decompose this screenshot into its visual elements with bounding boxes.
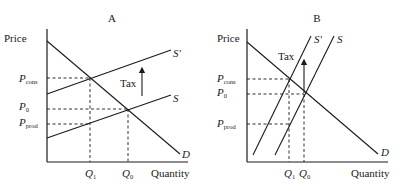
- p-cons-label: Pcons: [18, 72, 38, 85]
- supply-shifted-label: S': [173, 47, 182, 59]
- q0-label: Q0: [299, 167, 310, 180]
- p0-label: P0: [18, 100, 29, 113]
- panel-b-title: B: [313, 12, 320, 24]
- panel-b: B Price Quantity D S' S Tax Pcons P0 Ppr…: [216, 12, 390, 180]
- tax-label: Tax: [120, 77, 137, 89]
- tax-incidence-figure: A Price Quantity D S' S Tax Pcons P0 Ppr…: [0, 0, 402, 191]
- panel-a-title: A: [108, 12, 116, 24]
- supply-shifted-label: S': [314, 33, 323, 45]
- supply-label: S: [173, 92, 179, 104]
- price-axis-label: Price: [4, 32, 27, 44]
- p-prod-label: Pprod: [18, 116, 38, 129]
- p-cons-label: Pcons: [216, 72, 236, 85]
- q1-label: Q1: [284, 167, 295, 180]
- p-prod-label: Pprod: [216, 117, 236, 130]
- price-axis-label: Price: [217, 32, 240, 44]
- p0-label: P0: [216, 86, 227, 99]
- demand-label: D: [181, 148, 190, 160]
- quantity-axis-label: Quantity: [351, 167, 390, 179]
- supply-label: S: [337, 33, 343, 45]
- supply-curve: [47, 95, 171, 138]
- quantity-axis-label: Quantity: [151, 167, 190, 179]
- tax-label: Tax: [278, 50, 295, 62]
- panel-a: A Price Quantity D S' S Tax Pcons P0 Ppr…: [4, 12, 190, 180]
- demand-curve: [247, 42, 378, 154]
- q1-label: Q1: [85, 167, 96, 180]
- q0-label: Q0: [122, 167, 133, 180]
- demand-curve: [47, 41, 180, 154]
- demand-label: D: [380, 146, 389, 158]
